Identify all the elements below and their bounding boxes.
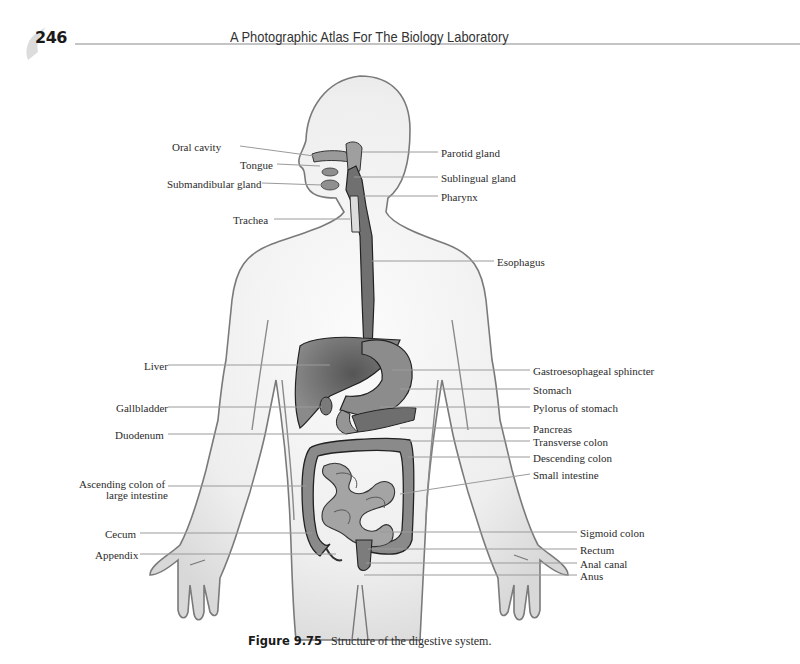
figure-caption: Figure 9.75 Structure of the digestive s… (248, 634, 491, 649)
label-rectum: Rectum (580, 544, 614, 556)
label-oral-cavity: Oral cavity (172, 141, 221, 153)
digestive-system-illustration (0, 0, 800, 664)
label-pylorus-of-stomach: Pylorus of stomach (533, 402, 618, 414)
label-gastroesophageal-sphincter: Gastroesophageal sphincter (533, 365, 654, 377)
figure-number: Figure 9.75 (248, 634, 322, 648)
label-ascending-colon-line2: large intestine (106, 489, 168, 501)
label-pharynx: Pharynx (441, 191, 478, 203)
label-anus: Anus (580, 570, 603, 582)
label-tongue: Tongue (240, 159, 273, 171)
label-appendix: Appendix (95, 549, 138, 561)
label-pancreas: Pancreas (533, 423, 572, 435)
label-sublingual-gland: Sublingual gland (441, 172, 516, 184)
label-duodenum: Duodenum (115, 429, 164, 441)
caption-text: Structure of the digestive system. (331, 634, 491, 648)
label-stomach: Stomach (533, 384, 572, 396)
label-parotid-gland: Parotid gland (441, 147, 500, 159)
label-transverse-colon: Transverse colon (533, 436, 608, 448)
label-sigmoid-colon: Sigmoid colon (580, 527, 644, 539)
label-anal-canal: Anal canal (580, 558, 627, 570)
label-small-intestine: Small intestine (533, 469, 599, 481)
label-gallbladder: Gallbladder (116, 402, 168, 414)
label-cecum: Cecum (105, 528, 136, 540)
label-trachea: Trachea (233, 214, 268, 226)
label-liver: Liver (144, 360, 168, 372)
label-descending-colon: Descending colon (533, 452, 612, 464)
label-submandibular-gland: Submandibular gland (167, 178, 261, 190)
label-esophagus: Esophagus (497, 256, 545, 268)
